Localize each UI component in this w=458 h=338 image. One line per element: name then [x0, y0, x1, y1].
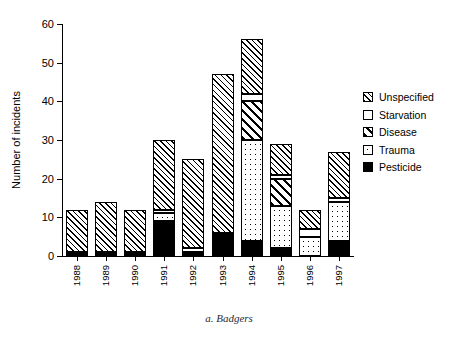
bar-segment-starvation	[153, 210, 175, 214]
bar-segment-unspecified	[212, 74, 234, 233]
bar-segment-pesticide	[95, 252, 117, 256]
bar-segment-trauma	[270, 206, 292, 249]
bar-segment-disease	[270, 179, 292, 206]
x-axis-tick	[310, 256, 311, 261]
x-axis-tick-label: 1988	[72, 265, 82, 286]
legend-item-label: Disease	[379, 127, 417, 138]
x-axis-tick-label: 1991	[159, 265, 169, 286]
bar-segment-disease	[241, 101, 263, 140]
bar-1989	[95, 202, 117, 256]
legend-item-disease: Disease	[363, 127, 434, 138]
y-axis-tick-label: 30	[42, 135, 54, 146]
bar-segment-starvation	[241, 94, 263, 102]
y-axis-tick	[57, 101, 62, 102]
x-axis-tick-label: 1995	[276, 265, 286, 286]
x-axis-tick-label: 1996	[305, 265, 315, 286]
bar-segment-pesticide	[153, 221, 175, 256]
x-axis-tick	[135, 256, 136, 261]
legend-item-unspecified: Unspecified	[363, 92, 434, 103]
y-axis-tick-label: 50	[42, 57, 54, 68]
bar-1994	[241, 39, 263, 256]
bar-segment-pesticide	[212, 233, 234, 256]
bar-segment-unspecified	[299, 210, 321, 229]
bar-segment-starvation	[299, 229, 321, 237]
bar-1996	[299, 210, 321, 256]
chart-figure: 0102030405060198819891990199119921993199…	[0, 0, 458, 338]
legend-item-label: Pesticide	[379, 162, 422, 173]
y-axis-tick-label: 0	[48, 251, 54, 262]
bar-segment-starvation	[182, 248, 204, 252]
bar-segment-starvation	[270, 175, 292, 179]
bar-1995	[270, 144, 292, 256]
bar-segment-pesticide	[66, 252, 88, 256]
bar-segment-unspecified	[66, 210, 88, 253]
y-axis-tick	[57, 179, 62, 180]
plot-area: 0102030405060198819891990199119921993199…	[62, 24, 354, 256]
x-axis-tick	[164, 256, 165, 261]
bar-segment-trauma	[299, 237, 321, 256]
bar-segment-starvation	[328, 198, 350, 202]
x-axis-tick	[106, 256, 107, 261]
figure-caption: a. Badgers	[0, 312, 458, 324]
bar-segment-trauma	[328, 202, 350, 241]
y-axis-tick	[57, 256, 62, 257]
bar-segment-unspecified	[241, 39, 263, 93]
bar-segment-pesticide	[270, 248, 292, 256]
legend-swatch-icon	[363, 127, 373, 137]
bar-segment-unspecified	[270, 144, 292, 175]
y-axis-tick-label: 10	[42, 212, 54, 223]
x-axis-tick-label: 1993	[218, 265, 228, 286]
legend-swatch-icon	[363, 145, 373, 155]
x-axis-tick-label: 1990	[130, 265, 140, 286]
y-axis-tick	[57, 217, 62, 218]
bar-1988	[66, 210, 88, 256]
y-axis-tick-label: 40	[42, 96, 54, 107]
bar-segment-unspecified	[182, 159, 204, 248]
x-axis-tick	[281, 256, 282, 261]
legend-swatch-icon	[363, 92, 373, 102]
legend-item-pesticide: Pesticide	[363, 162, 434, 173]
y-axis-tick-label: 20	[42, 173, 54, 184]
bar-1991	[153, 140, 175, 256]
x-axis-tick-label: 1992	[188, 265, 198, 286]
y-axis-title: Number of incidents	[10, 91, 22, 189]
x-axis-tick	[77, 256, 78, 261]
bar-segment-pesticide	[328, 241, 350, 256]
y-axis-tick-label: 60	[42, 19, 54, 30]
legend-item-starvation: Starvation	[363, 110, 434, 121]
x-axis-tick-label: 1997	[334, 265, 344, 286]
bar-segment-trauma	[241, 140, 263, 241]
legend-item-label: Trauma	[379, 145, 415, 156]
x-axis-tick-label: 1994	[247, 265, 257, 286]
y-axis-tick	[57, 140, 62, 141]
x-axis-tick	[252, 256, 253, 261]
bar-segment-unspecified	[328, 152, 350, 198]
bar-segment-unspecified	[153, 140, 175, 210]
y-axis-tick	[57, 24, 62, 25]
legend-item-trauma: Trauma	[363, 145, 434, 156]
x-axis-tick	[193, 256, 194, 261]
bar-1993	[212, 74, 234, 256]
bar-segment-unspecified	[124, 210, 146, 253]
bar-segment-unspecified	[95, 202, 117, 252]
legend-swatch-icon	[363, 162, 373, 172]
x-axis-tick	[339, 256, 340, 261]
legend-item-label: Unspecified	[379, 92, 434, 103]
y-axis-tick	[57, 63, 62, 64]
legend-swatch-icon	[363, 110, 373, 120]
bar-segment-pesticide	[241, 241, 263, 256]
bar-1990	[124, 210, 146, 256]
bar-segment-pesticide	[182, 252, 204, 256]
bar-segment-pesticide	[124, 252, 146, 256]
bar-segment-trauma	[153, 213, 175, 221]
bar-1997	[328, 152, 350, 256]
x-axis-tick	[223, 256, 224, 261]
legend-item-label: Starvation	[379, 110, 426, 121]
chart-legend: UnspecifiedStarvationDiseaseTraumaPestic…	[363, 92, 434, 173]
x-axis-tick-label: 1989	[101, 265, 111, 286]
bar-1992	[182, 159, 204, 256]
